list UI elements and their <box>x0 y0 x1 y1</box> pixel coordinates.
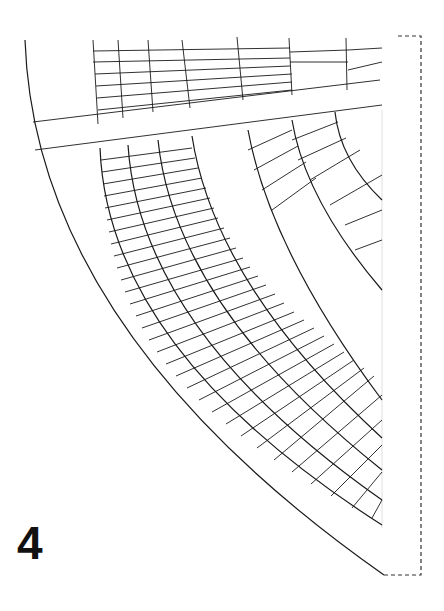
concentric-arcs <box>100 112 382 525</box>
page-number: 4 <box>17 520 43 566</box>
dial-chart-diagram <box>0 0 444 611</box>
label-band <box>33 80 382 150</box>
outer-arc <box>25 40 384 575</box>
radial-lines <box>101 122 382 518</box>
dashed-border <box>384 36 421 575</box>
